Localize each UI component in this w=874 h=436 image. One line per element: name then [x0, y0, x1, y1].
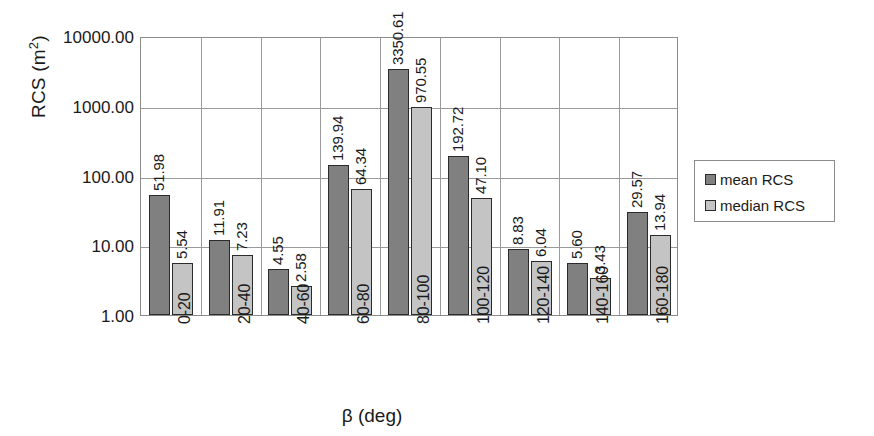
legend-swatch-mean-icon [705, 174, 716, 185]
y-tick-label: 10000.00 [0, 29, 134, 46]
bar-value-label: 13.94 [652, 194, 667, 231]
bar-value-label: 8.83 [510, 216, 525, 245]
y-tick-label: 1000.00 [0, 99, 134, 116]
bar-mean-rcs[interactable] [508, 249, 529, 315]
x-tick-label: 0-20 [177, 292, 193, 324]
bar-value-label: 2.58 [293, 254, 308, 283]
bar-value-label: 7.23 [234, 222, 249, 251]
x-tick-label: 100-120 [476, 266, 492, 324]
x-axis-title-text: β (deg) [342, 405, 403, 426]
bar-group: 139.9464.34 [320, 38, 380, 315]
rcs-bar-chart: RCS (m2) 10000.001000.00100.0010.001.00 … [0, 0, 874, 436]
bar-value-label: 3350.61 [390, 12, 405, 66]
y-axis-tick-labels: 10000.001000.00100.0010.001.00 [0, 0, 134, 436]
bar-value-label: 6.04 [533, 228, 548, 257]
bar-mean-rcs[interactable] [268, 269, 289, 315]
y-tick-label: 100.00 [0, 169, 134, 186]
legend-label-median: median RCS [720, 198, 805, 213]
legend-swatch-median-icon [705, 200, 716, 211]
x-tick-label: 40-60 [296, 284, 312, 324]
x-tick-label: 140-160 [595, 266, 611, 324]
legend-label-mean: mean RCS [720, 172, 793, 187]
legend-item-median: median RCS [705, 195, 834, 216]
bar-mean-rcs[interactable] [567, 263, 588, 315]
legend-item-mean: mean RCS [705, 169, 834, 190]
x-tick-label: 80-100 [416, 275, 432, 324]
bar-value-label: 4.55 [270, 236, 285, 265]
bar-group: 4.552.58 [261, 38, 321, 315]
x-tick-label: 160-180 [655, 266, 671, 324]
bar-mean-rcs[interactable] [448, 156, 469, 315]
bar-value-label: 51.98 [151, 154, 166, 191]
chart-legend: mean RCS median RCS [694, 160, 835, 222]
bar-value-label: 11.91 [211, 200, 226, 236]
x-axis-title: β (deg) [0, 405, 874, 427]
bar-value-label: 139.94 [330, 116, 345, 161]
bar-value-label: 29.57 [629, 171, 644, 208]
y-tick-label: 1.00 [0, 308, 134, 325]
bar-group: 3350.61970.55 [380, 38, 440, 315]
x-tick-label: 60-80 [356, 284, 372, 324]
bar-mean-rcs[interactable] [209, 240, 230, 315]
bar-mean-rcs[interactable] [388, 69, 409, 315]
bar-group: 51.985.54 [141, 38, 201, 315]
bar-mean-rcs[interactable] [328, 165, 349, 315]
bar-value-label: 192.72 [450, 106, 465, 151]
x-tick-label: 120-140 [536, 266, 552, 324]
bar-mean-rcs[interactable] [627, 212, 648, 315]
x-tick-label: 20-40 [237, 284, 253, 324]
bar-value-label: 64.34 [353, 148, 368, 185]
bar-value-label: 5.54 [174, 230, 189, 259]
y-tick-label: 10.00 [0, 238, 134, 255]
bar-group: 11.917.23 [201, 38, 261, 315]
bar-value-label: 5.60 [569, 230, 584, 259]
bar-mean-rcs[interactable] [149, 195, 170, 315]
bar-value-label: 47.10 [473, 157, 488, 194]
bar-value-label: 970.55 [413, 57, 428, 102]
